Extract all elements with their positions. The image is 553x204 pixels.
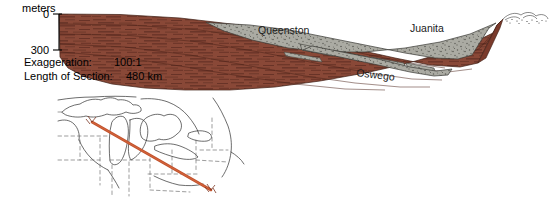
- lake-erie-outline: [155, 144, 198, 160]
- lake-ontario-outline: [188, 131, 211, 142]
- lake-superior-outline: [62, 98, 141, 117]
- outcrop-stipple-dots: [506, 19, 546, 24]
- lower-river-line: [108, 170, 119, 188]
- east-coast-outline: [213, 98, 231, 177]
- length-label: Length of Section:: [24, 70, 113, 82]
- length-value: 480 km: [126, 70, 162, 82]
- unit-label-queenston: Queenston: [258, 24, 310, 36]
- unit-label-juanita: Juanita: [410, 22, 444, 34]
- state-boundaries: [58, 112, 228, 196]
- lake-huron-outline: [140, 114, 181, 141]
- appalachian-coast-line: [231, 152, 244, 164]
- axis-title-meters: meters: [22, 2, 56, 14]
- outcrop-stipple-clusters: [503, 12, 548, 20]
- axis-tick-300: 300: [31, 44, 49, 56]
- axis-tick-0: 0: [43, 8, 49, 20]
- geologic-cross-section-figure: Queenston Juanita Oswego meters 0 300 Ex…: [0, 0, 553, 204]
- mississippi-river-line: [79, 140, 108, 170]
- exaggeration-value: 100:1: [114, 56, 142, 68]
- inset-map-great-lakes: [58, 96, 244, 196]
- ontario-outline: [141, 99, 199, 134]
- exaggeration-label: Exaggeration:: [24, 56, 92, 68]
- missouri-river-line: [58, 120, 79, 140]
- unit-label-oswego: Oswego: [356, 66, 396, 83]
- michigan-peninsula-outline: [128, 118, 147, 160]
